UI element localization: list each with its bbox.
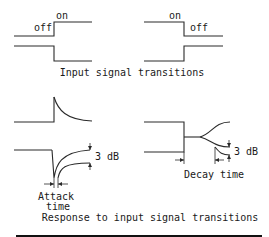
label-on-right: on [169, 10, 181, 21]
caption-response: Response to input signal transitions [42, 212, 259, 223]
input-transition-on-to-off: on off [144, 10, 223, 61]
caption-input-transitions: Input signal transitions [60, 67, 205, 78]
attack-time-label-2: time [46, 201, 70, 212]
input-transition-off-to-on: off on [14, 10, 92, 61]
decay-response: 3 dB Decay time [144, 122, 258, 180]
label-off-right: off [190, 22, 208, 33]
signal-transition-diagram: off on on off Input signal transitions 3… [0, 0, 269, 237]
label-off-left: off [34, 22, 52, 33]
attack-3db-label: 3 dB [95, 151, 119, 162]
decay-3db-label: 3 dB [234, 146, 258, 157]
attack-response: 3 dB Attack time [14, 97, 119, 212]
label-on-left: on [56, 10, 68, 21]
decay-time-label: Decay time [184, 169, 244, 180]
